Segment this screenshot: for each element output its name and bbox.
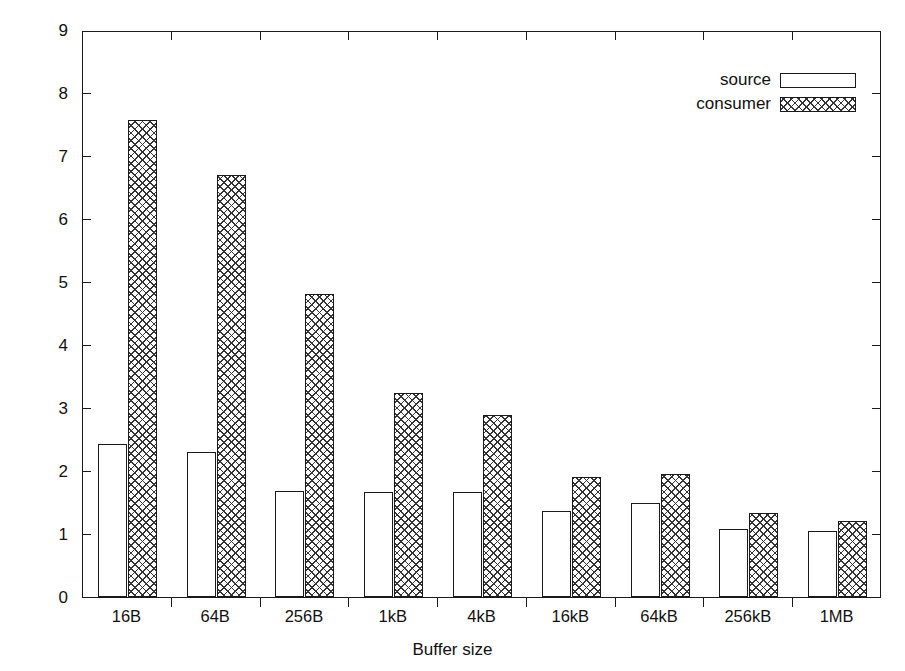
y-tick-label: 9: [44, 22, 68, 39]
y-tick-mark: [82, 282, 91, 283]
legend-label-source: source: [720, 70, 771, 90]
x-tick-mark: [437, 31, 438, 40]
x-tick-label: 256B: [260, 608, 349, 625]
bar-source-64kB: [631, 503, 660, 597]
y-tick-label: 3: [44, 400, 68, 417]
x-tick-label: 1MB: [792, 608, 881, 625]
x-tick-mark: [260, 598, 261, 607]
x-tick-mark: [260, 31, 261, 40]
y-tick-mark: [872, 282, 881, 283]
plot-frame: source consumer: [82, 31, 881, 598]
x-tick-mark: [437, 598, 438, 607]
y-tick-label: 2: [44, 463, 68, 480]
y-tick-mark: [872, 345, 881, 346]
bar-source-256B: [275, 491, 304, 597]
legend-swatch-source: [780, 73, 856, 88]
x-tick-mark: [703, 598, 704, 607]
x-tick-mark: [526, 31, 527, 40]
y-tick-mark: [82, 471, 91, 472]
x-tick-label: 64B: [171, 608, 260, 625]
x-tick-label: 4kB: [437, 608, 526, 625]
y-tick-label: 4: [44, 337, 68, 354]
x-tick-mark: [526, 598, 527, 607]
bar-consumer-16B: [128, 120, 157, 597]
x-axis-label: Buffer size: [0, 640, 905, 660]
y-tick-mark: [82, 156, 91, 157]
y-tick-mark: [872, 534, 881, 535]
legend-swatch-consumer: [780, 97, 856, 112]
legend-item-consumer: consumer: [638, 93, 856, 115]
y-tick-label: 6: [44, 211, 68, 228]
bar-source-16kB: [542, 511, 571, 597]
legend-label-consumer: consumer: [696, 94, 771, 114]
x-tick-mark: [171, 31, 172, 40]
bar-consumer-1kB: [394, 393, 423, 597]
bar-consumer-64B: [217, 175, 246, 597]
y-tick-mark: [82, 408, 91, 409]
y-tick-mark: [82, 219, 91, 220]
y-tick-mark: [872, 408, 881, 409]
y-tick-mark: [872, 93, 881, 94]
bar-consumer-256B: [305, 294, 334, 597]
y-tick-mark: [872, 156, 881, 157]
bar-consumer-256kB: [749, 513, 778, 597]
x-tick-mark: [792, 598, 793, 607]
chart-legend: source consumer: [638, 69, 856, 117]
bar-source-64B: [187, 452, 216, 597]
y-tick-mark: [82, 345, 91, 346]
bar-consumer-4kB: [483, 415, 512, 597]
x-tick-label: 256kB: [703, 608, 792, 625]
y-tick-mark: [82, 534, 91, 535]
x-tick-mark: [703, 31, 704, 40]
x-tick-mark: [348, 31, 349, 40]
x-tick-mark: [792, 31, 793, 40]
y-tick-label: 0: [44, 589, 68, 606]
bar-source-256kB: [719, 529, 748, 597]
x-tick-mark: [615, 598, 616, 607]
bar-source-4kB: [453, 492, 482, 597]
y-tick-mark: [872, 471, 881, 472]
x-tick-mark: [171, 598, 172, 607]
chart-figure: ChilFlow/TCP CPU usage ratio 0123456789 …: [0, 0, 905, 671]
y-tick-label: 5: [44, 274, 68, 291]
x-tick-label: 16B: [82, 608, 171, 625]
bar-source-1MB: [808, 531, 837, 597]
y-tick-label: 8: [44, 85, 68, 102]
x-tick-mark: [348, 598, 349, 607]
y-tick-label: 7: [44, 148, 68, 165]
x-tick-label: 64kB: [615, 608, 704, 625]
bar-consumer-1MB: [838, 521, 867, 597]
y-tick-mark: [82, 93, 91, 94]
bar-source-1kB: [364, 492, 393, 597]
bar-source-16B: [98, 444, 127, 597]
legend-item-source: source: [638, 69, 856, 91]
bar-consumer-16kB: [572, 477, 601, 597]
x-tick-mark: [615, 31, 616, 40]
y-tick-label: 1: [44, 526, 68, 543]
x-tick-label: 16kB: [526, 608, 615, 625]
bar-consumer-64kB: [661, 474, 690, 597]
y-tick-mark: [872, 219, 881, 220]
x-tick-label: 1kB: [348, 608, 437, 625]
